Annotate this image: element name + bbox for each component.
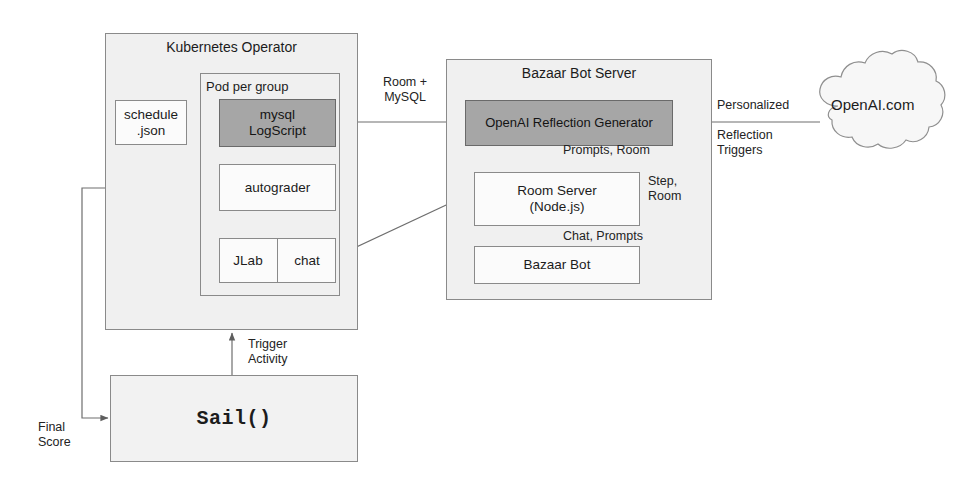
bazaar-bot-server-title: Bazaar Bot Server xyxy=(522,60,636,82)
autograder-box[interactable]: autograder xyxy=(219,164,336,211)
edge-label-final-score: Final Score xyxy=(38,420,100,450)
room-server-box[interactable]: Room Server (Node.js) xyxy=(474,172,640,226)
diagram-canvas: Kubernetes Operator schedule .json Pod p… xyxy=(0,0,963,483)
schedule-json-box[interactable]: schedule .json xyxy=(115,100,187,145)
edge-label-reflection-triggers: Reflection Triggers xyxy=(717,128,805,158)
edge-label-chat-prompts: Chat, Prompts xyxy=(563,229,683,244)
jlab-cell[interactable]: JLab xyxy=(219,238,277,283)
edge-label-personalized: Personalized xyxy=(717,98,821,113)
chat-cell[interactable]: chat xyxy=(277,238,336,283)
openai-com-cloud-label[interactable]: OpenAI.com xyxy=(831,96,914,113)
kubernetes-operator-title: Kubernetes Operator xyxy=(166,34,297,56)
pod-per-group-title: Pod per group xyxy=(201,74,288,94)
bazaar-bot-box[interactable]: Bazaar Bot xyxy=(474,246,640,284)
mysql-logscript-box[interactable]: mysql LogScript xyxy=(219,99,336,147)
sail-label: Sail() xyxy=(196,407,271,431)
edge-label-step-room: Step, Room xyxy=(648,174,698,204)
edge-label-trigger-activity: Trigger Activity xyxy=(248,337,332,367)
openai-reflection-generator-box[interactable]: OpenAI Reflection Generator xyxy=(465,100,673,146)
edge-label-room-mysql: Room + MySQL xyxy=(367,75,443,105)
edge-label-prompts-room: Prompts, Room xyxy=(563,143,683,158)
sail-box[interactable]: Sail() xyxy=(110,375,358,462)
